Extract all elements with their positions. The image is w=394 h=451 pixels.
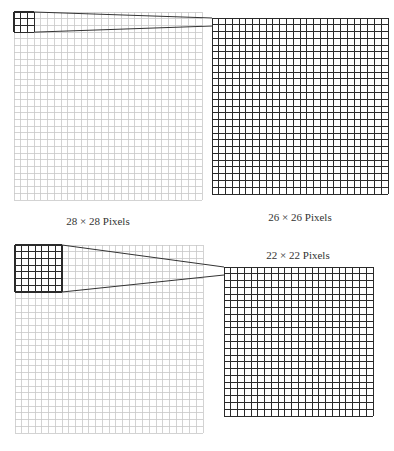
top-input-grid xyxy=(14,12,202,200)
bottom-input-grid xyxy=(15,245,203,433)
bottom-kernel-window xyxy=(15,245,62,292)
top-output-label: 26 × 26 Pixels xyxy=(268,211,331,223)
bottom-output-grid xyxy=(224,267,373,416)
top-output-grid xyxy=(212,18,388,194)
bottom-output-label: 22 × 22 Pixels xyxy=(266,249,329,261)
top-input-label: 28 × 28 Pixels xyxy=(66,215,129,227)
top-kernel-window xyxy=(14,12,34,32)
bottom-connector-top xyxy=(62,245,224,267)
convolution-diagram xyxy=(0,0,394,451)
bottom-connector-bottom xyxy=(62,275,224,292)
